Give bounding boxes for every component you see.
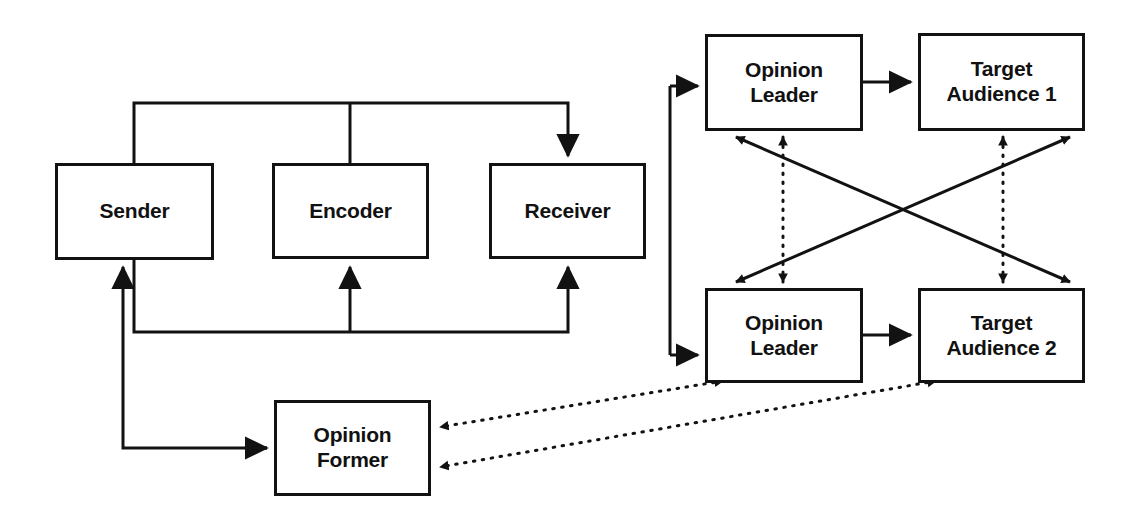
node-opinion-former[interactable]: Opinion Former xyxy=(274,400,431,496)
node-opinion-former-label: Opinion Former xyxy=(310,423,396,473)
diagram-canvas: Sender Encoder Receiver Opinion Leader T… xyxy=(0,0,1139,526)
node-opinion-leader-2-label: Opinion Leader xyxy=(741,311,827,361)
node-receiver[interactable]: Receiver xyxy=(489,163,646,259)
node-target-audience-2[interactable]: Target Audience 2 xyxy=(918,288,1085,383)
node-sender-label: Sender xyxy=(96,199,174,224)
node-encoder[interactable]: Encoder xyxy=(272,163,429,259)
node-encoder-label: Encoder xyxy=(305,199,396,224)
node-opinion-leader-1-label: Opinion Leader xyxy=(741,58,827,108)
node-sender[interactable]: Sender xyxy=(55,163,214,260)
edge-opinion-former-to-sender xyxy=(123,267,267,448)
node-target-audience-2-label: Target Audience 2 xyxy=(942,311,1060,361)
node-target-audience-1[interactable]: Target Audience 1 xyxy=(918,33,1085,131)
node-receiver-label: Receiver xyxy=(521,199,615,224)
edge-ta2-to-opinion-former-dotted xyxy=(440,381,936,467)
node-opinion-leader-1[interactable]: Opinion Leader xyxy=(705,34,863,131)
edge-ol2-to-opinion-former-dotted xyxy=(440,381,723,427)
node-target-audience-1-label: Target Audience 1 xyxy=(942,57,1060,107)
node-opinion-leader-2[interactable]: Opinion Leader xyxy=(705,288,863,383)
